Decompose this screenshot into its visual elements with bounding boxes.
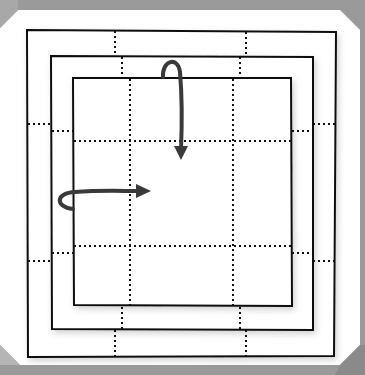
fold-diagram: [0, 0, 365, 375]
diagram-canvas: [0, 0, 365, 375]
right-edge: [360, 10, 365, 345]
